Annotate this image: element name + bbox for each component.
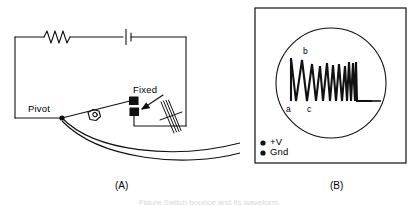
fixed-label-arrowhead <box>142 103 150 109</box>
pivot-label: Pivot <box>28 104 50 114</box>
wire-to-plusV <box>62 118 240 152</box>
panel-a-caption: (A) <box>115 180 128 191</box>
resistor-symbol <box>44 31 70 43</box>
hex-nut <box>88 110 101 121</box>
figure-drawing <box>0 0 417 205</box>
figure-switch-bounce: Pivot Fixed +V Gnd a b c (A) (B) Figure … <box>0 0 417 205</box>
nut-spiral <box>93 112 98 116</box>
lever-arm <box>62 101 130 118</box>
panel-a-circuit <box>15 30 186 134</box>
wire-to-gnd <box>62 121 240 160</box>
waveform-trace <box>291 58 372 101</box>
terminal-gnd-dot <box>260 150 265 155</box>
fixed-contact-lower <box>130 108 139 116</box>
leaf-spring <box>160 100 182 133</box>
terminal-plusV-dot <box>260 140 265 145</box>
terminal-gnd-label: Gnd <box>270 147 289 157</box>
interconnect-wires <box>62 118 240 160</box>
figure-bottom-caption: Figure Switch bounce and its waveform <box>0 198 417 205</box>
trace-label-b: b <box>303 47 308 56</box>
fixed-contact-upper <box>130 97 139 105</box>
trace-label-c: c <box>307 105 311 114</box>
trace-label-a: a <box>286 105 291 114</box>
fixed-label: Fixed <box>133 85 157 95</box>
panel-b-caption: (B) <box>330 180 343 191</box>
